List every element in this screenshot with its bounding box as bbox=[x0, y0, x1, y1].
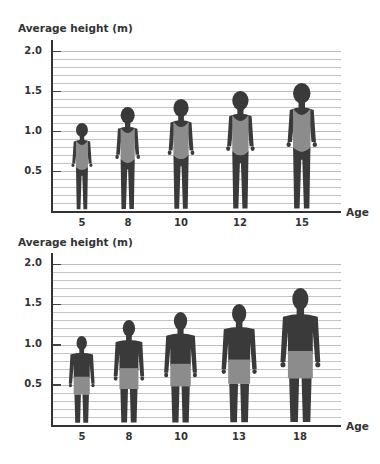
y-tick-label: 1.5 bbox=[12, 85, 42, 96]
plot-area bbox=[51, 40, 341, 213]
boy-figure-icon bbox=[64, 336, 99, 425]
y-tick bbox=[53, 384, 61, 386]
boy-figure-icon bbox=[158, 312, 203, 425]
boy-figure-icon bbox=[108, 320, 150, 425]
plot-area bbox=[51, 253, 341, 427]
chart-girls: Average height (m) 2.0 1.5 1.0 0.5 bbox=[0, 0, 380, 225]
y-tick bbox=[53, 51, 61, 53]
y-tick-label: 2.0 bbox=[12, 45, 42, 56]
y-tick-label: 1.0 bbox=[12, 338, 42, 349]
girl-figure-icon bbox=[162, 99, 200, 211]
x-tick-label: 18 bbox=[285, 431, 315, 442]
y-tick bbox=[53, 131, 61, 133]
boy-figure-icon bbox=[273, 288, 328, 425]
y-tick bbox=[53, 171, 61, 173]
x-axis bbox=[51, 211, 341, 213]
x-axis bbox=[51, 425, 341, 427]
girl-figure-icon bbox=[220, 91, 261, 211]
y-tick bbox=[53, 264, 61, 266]
gridline-minor bbox=[53, 67, 341, 68]
gridline-minor bbox=[53, 75, 341, 76]
y-tick-label: 2.0 bbox=[12, 257, 42, 268]
girl-figure-icon bbox=[67, 123, 97, 211]
x-tick-label: 8 bbox=[114, 431, 144, 442]
girl-figure-icon bbox=[110, 107, 145, 211]
gridline-minor bbox=[53, 272, 341, 273]
gridline-major bbox=[53, 264, 341, 265]
y-tick bbox=[53, 344, 61, 346]
boy-figure-icon bbox=[215, 304, 263, 425]
gridline-minor bbox=[53, 59, 341, 60]
x-axis-title: Age bbox=[346, 206, 369, 218]
y-tick-label: 1.0 bbox=[12, 125, 42, 136]
y-tick bbox=[53, 304, 61, 306]
x-axis-title: Age bbox=[346, 420, 369, 432]
y-tick-label: 0.5 bbox=[12, 165, 42, 176]
gridline-major bbox=[53, 51, 341, 52]
y-tick bbox=[53, 91, 61, 93]
y-axis-title: Average height (m) bbox=[18, 22, 133, 34]
x-tick-label: 10 bbox=[166, 431, 196, 442]
chart-boys: Average height (m) 2.0 1.5 1.0 0.5 bbox=[0, 225, 380, 464]
y-axis-title: Average height (m) bbox=[18, 236, 133, 248]
gridline-minor bbox=[53, 280, 341, 281]
y-tick-label: 0.5 bbox=[12, 378, 42, 389]
x-tick-label: 13 bbox=[224, 431, 254, 442]
girl-figure-icon bbox=[280, 83, 324, 211]
y-tick-label: 1.5 bbox=[12, 297, 42, 308]
x-tick-label: 5 bbox=[67, 431, 97, 442]
